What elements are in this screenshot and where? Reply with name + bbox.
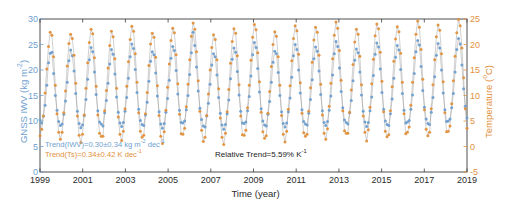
annotation-relative-trend: Relative Trend=5.59% K-1 bbox=[215, 150, 307, 159]
data-point bbox=[168, 62, 171, 65]
data-point bbox=[187, 83, 190, 86]
data-point bbox=[459, 24, 462, 27]
data-point bbox=[440, 52, 443, 55]
data-point bbox=[221, 124, 224, 127]
data-point bbox=[452, 79, 455, 82]
data-point bbox=[64, 100, 67, 103]
data-point bbox=[394, 37, 397, 40]
data-point bbox=[229, 62, 232, 65]
data-point bbox=[289, 84, 292, 87]
data-point bbox=[149, 42, 152, 45]
data-point bbox=[210, 46, 213, 49]
data-point bbox=[39, 134, 42, 137]
data-point bbox=[387, 133, 390, 136]
data-point bbox=[66, 81, 69, 84]
data-point bbox=[433, 75, 436, 78]
data-point bbox=[384, 120, 387, 123]
data-point bbox=[292, 37, 295, 40]
data-point bbox=[69, 33, 72, 36]
data-point bbox=[239, 114, 242, 117]
data-point bbox=[374, 34, 377, 37]
data-point bbox=[135, 91, 138, 94]
data-point bbox=[384, 130, 387, 133]
data-point bbox=[88, 41, 91, 44]
data-point bbox=[414, 50, 417, 53]
data-point bbox=[40, 122, 43, 125]
data-point bbox=[420, 48, 423, 51]
data-point bbox=[212, 52, 215, 55]
data-point bbox=[258, 80, 261, 83]
data-point bbox=[253, 23, 256, 26]
data-point bbox=[88, 58, 91, 61]
data-point bbox=[115, 96, 118, 99]
data-point bbox=[152, 53, 155, 56]
data-point bbox=[263, 137, 266, 140]
data-point bbox=[185, 105, 188, 108]
data-point bbox=[154, 72, 157, 75]
data-point bbox=[256, 67, 259, 70]
data-point bbox=[430, 111, 433, 114]
data-point bbox=[86, 78, 89, 81]
annotation-trend-iwv: Trend(IWV)=0.30±0.34 kg m-2 dec-1 bbox=[45, 140, 165, 149]
data-point bbox=[120, 125, 123, 128]
data-point bbox=[142, 124, 145, 127]
data-point bbox=[268, 100, 271, 103]
data-point bbox=[134, 52, 137, 55]
data-point bbox=[146, 91, 149, 94]
data-point bbox=[154, 56, 157, 59]
data-point bbox=[374, 53, 377, 56]
data-point bbox=[248, 95, 251, 98]
data-point bbox=[251, 36, 254, 39]
data-point bbox=[44, 104, 47, 107]
data-point bbox=[236, 54, 239, 57]
data-point bbox=[198, 107, 201, 110]
data-point bbox=[243, 134, 246, 137]
data-point bbox=[455, 48, 458, 51]
data-point bbox=[132, 47, 135, 50]
data-point bbox=[466, 127, 469, 130]
data-point bbox=[353, 59, 356, 62]
x-tick-label: 2009 bbox=[234, 175, 274, 185]
data-point bbox=[413, 72, 416, 75]
data-point bbox=[355, 48, 358, 51]
data-point bbox=[238, 83, 241, 86]
data-point bbox=[462, 76, 465, 79]
x-tick-label: 2007 bbox=[191, 175, 231, 185]
data-point bbox=[176, 82, 179, 85]
data-point bbox=[440, 69, 443, 72]
data-point bbox=[391, 85, 394, 88]
data-point bbox=[311, 61, 314, 64]
y-tick-label-left: 30 bbox=[14, 14, 38, 24]
data-point bbox=[403, 109, 406, 112]
data-point bbox=[187, 94, 190, 97]
data-point bbox=[258, 90, 261, 93]
data-point bbox=[365, 139, 368, 142]
data-point bbox=[204, 136, 207, 139]
data-point bbox=[438, 47, 441, 50]
data-point bbox=[289, 97, 292, 100]
data-point bbox=[76, 114, 79, 117]
data-point bbox=[430, 107, 433, 110]
data-point bbox=[462, 87, 465, 90]
data-point bbox=[78, 122, 81, 125]
data-point bbox=[420, 65, 423, 68]
data-point bbox=[318, 70, 321, 73]
data-point bbox=[387, 124, 390, 127]
data-point bbox=[125, 96, 128, 99]
data-point bbox=[212, 33, 215, 36]
data-point bbox=[227, 88, 230, 91]
data-point bbox=[47, 61, 50, 64]
data-point bbox=[175, 53, 178, 56]
data-point bbox=[397, 49, 400, 52]
data-point bbox=[161, 127, 164, 130]
data-point bbox=[101, 135, 104, 138]
data-point bbox=[214, 55, 217, 58]
data-point bbox=[61, 123, 64, 126]
data-point bbox=[248, 84, 251, 87]
data-point bbox=[117, 115, 120, 118]
data-point bbox=[408, 126, 411, 129]
data-point bbox=[377, 46, 380, 49]
data-point bbox=[147, 80, 150, 83]
data-point bbox=[454, 55, 457, 58]
annotation-trend-ts: Trend(Ts)=0.34±0.42 K dec-1 bbox=[45, 150, 142, 159]
